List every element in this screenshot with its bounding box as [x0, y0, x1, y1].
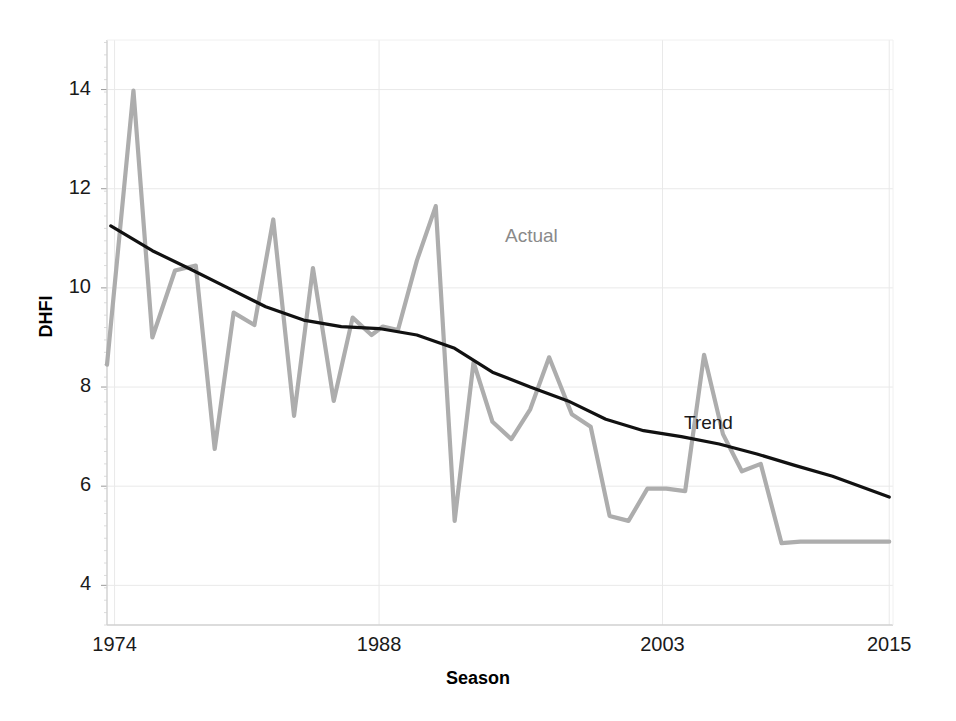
- plot-area: [0, 0, 956, 721]
- series-label-trend: Trend: [684, 412, 733, 434]
- y-tick-label: 14: [29, 77, 91, 100]
- series-line-actual: [107, 91, 889, 544]
- x-tick-label: 2003: [612, 633, 712, 656]
- y-tick-label: 6: [29, 473, 91, 496]
- chart-figure: DHFI Season Actual Trend 468101214197419…: [0, 0, 956, 721]
- y-tick-label: 12: [29, 176, 91, 199]
- y-tick-label: 8: [29, 374, 91, 397]
- y-tick-label: 10: [29, 275, 91, 298]
- x-axis-title: Season: [0, 668, 956, 689]
- series-label-actual: Actual: [505, 225, 558, 247]
- y-tick-label: 4: [29, 572, 91, 595]
- x-tick-label: 1988: [329, 633, 429, 656]
- x-tick-label: 1974: [65, 633, 165, 656]
- x-tick-label: 2015: [839, 633, 939, 656]
